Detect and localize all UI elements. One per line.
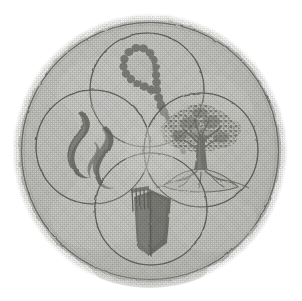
emblem-canvas: Four-circle emblem [0,0,302,301]
emblem-illustration [0,0,302,301]
center-overlap [125,127,173,173]
